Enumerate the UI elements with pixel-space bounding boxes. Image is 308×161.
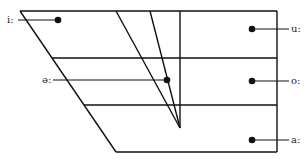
- vowel-dot-i: [55, 17, 62, 24]
- frame-left-slanted-edge: [20, 11, 116, 152]
- vowel-label-u: u:: [291, 24, 301, 34]
- converging-line-2: [150, 11, 180, 128]
- vowel-label-o: o:: [291, 76, 300, 86]
- vowel-dot-u: [249, 26, 256, 33]
- converging-line-1: [116, 11, 180, 128]
- vowel-label-a: a:: [291, 135, 300, 145]
- vowel-dot-o: [249, 78, 256, 85]
- vowel-label-i: i:: [7, 15, 14, 25]
- vowel-dot-schwa: [164, 77, 171, 84]
- vowel-dot-a: [249, 137, 256, 144]
- vowel-label-schwa: ə:: [42, 75, 51, 85]
